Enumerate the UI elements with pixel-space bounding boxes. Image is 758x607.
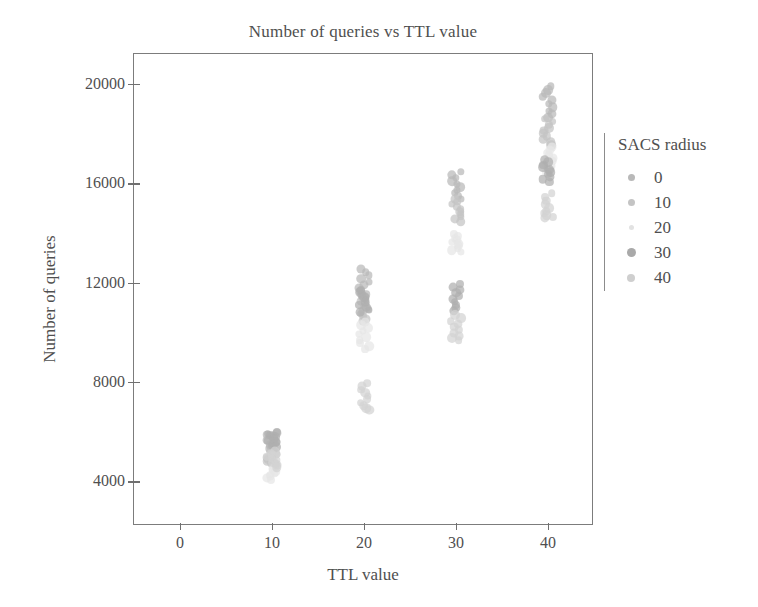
x-axis-tick <box>180 523 181 530</box>
x-axis-tick <box>272 523 273 530</box>
y-axis-tick-label: 20000 <box>85 75 125 93</box>
legend-marker-icon <box>618 274 644 282</box>
legend-marker-icon <box>618 199 644 206</box>
y-axis-title: Number of queries <box>40 199 60 399</box>
page-title: Number of queries vs TTL value <box>133 22 593 42</box>
legend-marker-icon <box>618 174 644 181</box>
x-axis-tick-label: 40 <box>540 534 556 552</box>
x-axis-tick <box>456 523 457 530</box>
y-axis-tick-label: 12000 <box>85 274 125 292</box>
x-axis-tick <box>548 523 549 530</box>
legend-item[interactable]: 40 <box>618 265 671 290</box>
legend-marker-icon <box>618 225 644 230</box>
y-axis-tick <box>128 84 140 85</box>
legend-marker-icon <box>618 248 644 257</box>
legend-item[interactable]: 10 <box>618 190 671 215</box>
legend-item-label: 40 <box>654 268 671 288</box>
y-axis-tick-label: 8000 <box>93 373 125 391</box>
y-axis-tick <box>128 382 140 383</box>
y-axis-tick <box>128 481 140 482</box>
legend-item[interactable]: 20 <box>618 215 671 240</box>
y-axis-tick-label: 4000 <box>93 472 125 490</box>
x-axis-tick-label: 0 <box>176 534 184 552</box>
legend-items: 010203040 <box>618 165 671 290</box>
legend-item-label: 0 <box>654 168 663 188</box>
legend-item[interactable]: 30 <box>618 240 671 265</box>
legend-item-label: 20 <box>654 218 671 238</box>
y-axis-tick <box>128 183 140 184</box>
x-axis-tick <box>364 523 365 530</box>
y-axis-tick-label: 16000 <box>85 174 125 192</box>
x-axis-tick-label: 20 <box>356 534 372 552</box>
y-axis-ticks: 40008000120001600020000 <box>134 54 592 524</box>
legend-item[interactable]: 0 <box>618 165 671 190</box>
x-axis-tick-label: 10 <box>264 534 280 552</box>
plot-frame: 40008000120001600020000 010203040 <box>133 53 593 525</box>
scatter-plot-figure: Number of queries vs TTL value 400080001… <box>0 0 758 607</box>
legend-title: SACS radius <box>618 135 706 155</box>
y-axis-tick <box>128 283 140 284</box>
legend-item-label: 10 <box>654 193 671 213</box>
legend-item-label: 30 <box>654 243 671 263</box>
x-axis-title: TTL value <box>133 565 593 585</box>
x-axis-tick-label: 30 <box>448 534 464 552</box>
legend-divider <box>604 133 605 291</box>
